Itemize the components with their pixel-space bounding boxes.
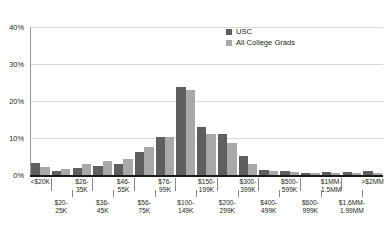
bar (114, 164, 123, 175)
x-axis-tick-mark (258, 178, 259, 191)
bar (343, 172, 352, 175)
x-axis-tick-mark (134, 178, 135, 191)
bar (156, 137, 165, 175)
bar (259, 170, 268, 175)
legend-item[interactable]: USC (226, 28, 295, 36)
bar (123, 159, 132, 175)
x-axis-tick-label: $1MM- 1.5MM (312, 178, 350, 193)
legend-swatch-icon (226, 40, 232, 46)
bar-group (258, 27, 279, 175)
bar (135, 152, 144, 175)
bar (93, 166, 102, 175)
legend-item[interactable]: All College Grads (226, 39, 295, 47)
x-axis-tick-label: $150- 199K (188, 178, 226, 193)
bar (352, 173, 361, 175)
bar (227, 143, 236, 175)
x-axis-tick-label: >$2MM (354, 178, 388, 186)
x-axis-labels: <$20K$20- 25K$26- 35K$36- 45K$46- 55K$56… (30, 177, 383, 229)
y-axis-labels: 0%10%20%30%40% (0, 0, 28, 229)
x-axis-tick-mark (362, 190, 363, 197)
bar-group (155, 27, 176, 175)
bar (103, 161, 112, 175)
x-axis-tick-label: $300- 399K (229, 178, 267, 193)
bar (176, 87, 185, 175)
bar-group (217, 27, 238, 175)
x-axis-tick-label: $76- 99K (146, 178, 184, 193)
x-axis-tick-label: <$20K (21, 178, 59, 186)
bar (322, 172, 331, 175)
bar (165, 137, 174, 175)
bar (61, 169, 70, 175)
x-axis-tick-mark (217, 178, 218, 191)
y-axis-tick-label: 30% (9, 60, 24, 69)
bar (52, 171, 61, 175)
bar (373, 173, 382, 175)
x-axis-tick-label: $46- 55K (104, 178, 142, 193)
x-axis-tick-mark (175, 178, 176, 191)
x-axis-tick-label: $26- 35K (63, 178, 101, 193)
y-axis-tick-label: 40% (9, 23, 24, 32)
bar (310, 173, 319, 175)
bar-group (321, 27, 342, 175)
bar (31, 163, 40, 175)
bar-group (238, 27, 259, 175)
bar (144, 147, 153, 175)
bar (290, 172, 299, 175)
bar (269, 171, 278, 175)
bar-group (92, 27, 113, 175)
bar (82, 164, 91, 175)
bar (280, 171, 289, 175)
x-axis-tick-label: $56- 75K (125, 199, 163, 214)
bar (186, 90, 195, 175)
bar-group (134, 27, 155, 175)
bar (239, 156, 248, 175)
bar-group (72, 27, 93, 175)
x-axis-tick-label: $20- 25K (42, 199, 80, 214)
bar-group (113, 27, 134, 175)
x-axis-tick-mark (92, 178, 93, 191)
x-axis-tick-label: $400- 499K (250, 199, 288, 214)
x-axis-tick-mark (51, 178, 52, 191)
legend-item-label: USC (236, 28, 252, 36)
bar (301, 173, 310, 175)
bar-group (341, 27, 362, 175)
bar (40, 167, 49, 175)
bar-group (196, 27, 217, 175)
bar (363, 171, 372, 175)
x-axis-tick-label: $600- 999K (291, 199, 329, 214)
x-axis-tick-label: $1.6MM- 1.99MM (333, 199, 371, 214)
x-axis-tick-label: $200- 299K (208, 199, 246, 214)
bar (197, 127, 206, 175)
bar (206, 134, 215, 175)
x-axis-tick-label: $500- 599K (271, 178, 309, 193)
bar-group (362, 27, 383, 175)
x-axis-tick-mark (341, 178, 342, 191)
x-axis-tick-label: $36- 45K (84, 199, 122, 214)
x-axis-tick-mark (300, 178, 301, 191)
y-axis-tick-label: 20% (9, 97, 24, 106)
x-axis-tick-label: $100- 149K (167, 199, 205, 214)
bar-group (30, 27, 51, 175)
bar (331, 173, 340, 175)
bar-group (175, 27, 196, 175)
bar-group (300, 27, 321, 175)
bar-group (279, 27, 300, 175)
legend-swatch-icon (226, 29, 232, 35)
bar (248, 164, 257, 175)
legend-item-label: All College Grads (236, 39, 295, 47)
bar (218, 134, 227, 175)
income-distribution-bar-chart: 0%10%20%30%40% USCAll College Grads <$20… (0, 0, 388, 229)
bar-groups (30, 27, 383, 175)
bar-group (51, 27, 72, 175)
chart-legend: USCAll College Grads (226, 28, 295, 49)
bar (73, 168, 82, 175)
y-axis-tick-label: 10% (9, 134, 24, 143)
